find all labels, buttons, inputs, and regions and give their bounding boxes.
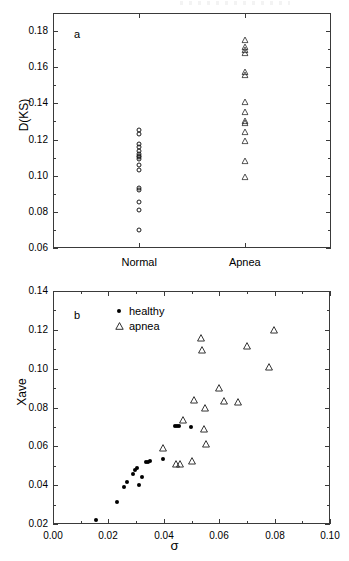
data-point-apnea [243,342,251,350]
x-tick-category-top [139,13,140,18]
y-tick-minor-right [327,505,330,506]
y-tick-major [53,67,58,68]
y-tick-minor-right [328,49,331,50]
data-point-apnea [241,120,248,127]
y-tick-minor-right [327,310,330,311]
x-tick-major [330,519,331,524]
y-tick-major-right [326,140,331,141]
filled-dot-icon [112,309,126,313]
x-tick-major [219,519,220,524]
y-tick-minor-right [327,349,330,350]
y-tick-minor [53,427,56,428]
y-tick-major [53,212,58,213]
y-tick-minor [53,349,56,350]
legend-item-apnea: apnea [112,319,164,333]
x-tick-major-top [108,291,109,296]
data-point-normal [137,188,142,193]
y-tick-major-right [325,369,330,370]
y-tick-major-right [325,485,330,486]
data-point-normal [137,199,142,204]
x-tick-minor-top [136,291,137,294]
y-tick-label: 0.12 [13,325,48,335]
y-tick-minor [53,230,56,231]
data-point-apnea [200,425,208,433]
y-tick-major [53,248,58,249]
data-point-apnea [241,138,248,145]
data-point-apnea [179,416,187,424]
x-tick-minor [81,521,82,524]
y-tick-minor-right [327,388,330,389]
data-point-healthy [140,475,144,479]
data-point-apnea [241,37,248,44]
y-tick-minor-right [328,121,331,122]
data-point-healthy [125,480,129,484]
y-tick-label: 0.12 [13,135,48,145]
data-point-apnea [270,326,278,334]
y-tick-minor [53,49,56,50]
open-triangle-icon [112,322,126,330]
y-tick-major [53,103,58,104]
x-tick-category [139,243,140,248]
data-point-apnea [215,384,223,392]
data-point-healthy [137,483,141,487]
x-tick-label: 0.10 [305,531,349,541]
y-tick-major [53,485,58,486]
category-label-apnea: Apnea [205,257,285,268]
x-tick-major-top [219,291,220,296]
y-tick-label: 0.08 [13,207,48,217]
y-tick-major-right [325,330,330,331]
y-tick-major-right [325,446,330,447]
y-tick-label: 0.06 [13,441,48,451]
data-point-normal [137,227,142,232]
data-point-apnea [241,72,248,79]
data-point-apnea [241,129,248,136]
y-tick-minor [53,388,56,389]
x-tick-label: 0.08 [250,531,300,541]
data-point-apnea [241,173,248,180]
x-tick-major [164,519,165,524]
y-tick-label: 0.04 [13,480,48,490]
y-tick-major [53,176,58,177]
figure-container: a D(KS) 0.060.080.100.120.140.160.18 Nor… [0,0,349,561]
data-point-apnea [234,398,242,406]
data-point-apnea [188,457,196,465]
y-tick-label: 0.02 [13,519,48,529]
y-tick-major-right [326,103,331,104]
data-point-healthy [115,500,119,504]
y-tick-minor-right [328,194,331,195]
y-tick-major [53,524,58,525]
y-tick-major [53,369,58,370]
x-tick-minor [192,521,193,524]
data-point-apnea [241,98,248,105]
panel-a: a D(KS) 0.060.080.100.120.140.160.18 Nor… [0,0,349,280]
y-tick-label: 0.18 [13,26,48,36]
y-tick-minor-right [328,230,331,231]
data-point-apnea [201,404,209,412]
y-tick-major-right [326,67,331,68]
x-tick-minor-top [192,291,193,294]
y-tick-minor [53,194,56,195]
data-point-apnea [190,396,198,404]
x-tick-category-top [245,13,246,18]
data-point-healthy [189,425,193,429]
legend-item-healthy: healthy [112,304,164,318]
category-label-normal: Normal [99,257,179,268]
y-tick-minor [53,158,56,159]
data-point-apnea [198,346,206,354]
data-point-apnea [176,460,184,468]
data-point-normal [137,132,142,137]
data-point-healthy [135,466,139,470]
x-tick-label: 0.02 [83,531,133,541]
y-tick-major-right [325,524,330,525]
data-point-apnea [241,108,248,115]
data-point-apnea [241,158,248,165]
x-tick-major-top [53,291,54,296]
y-tick-minor-right [328,85,331,86]
data-point-normal [137,162,142,167]
panel-b: b Xave σ healthy apnea 0.020.040.060.080… [0,280,349,561]
data-point-normal [137,156,142,161]
x-tick-minor-top [81,291,82,294]
y-tick-minor-right [327,427,330,428]
plot-frame-a [53,13,331,248]
legend-label-healthy: healthy [129,306,164,317]
